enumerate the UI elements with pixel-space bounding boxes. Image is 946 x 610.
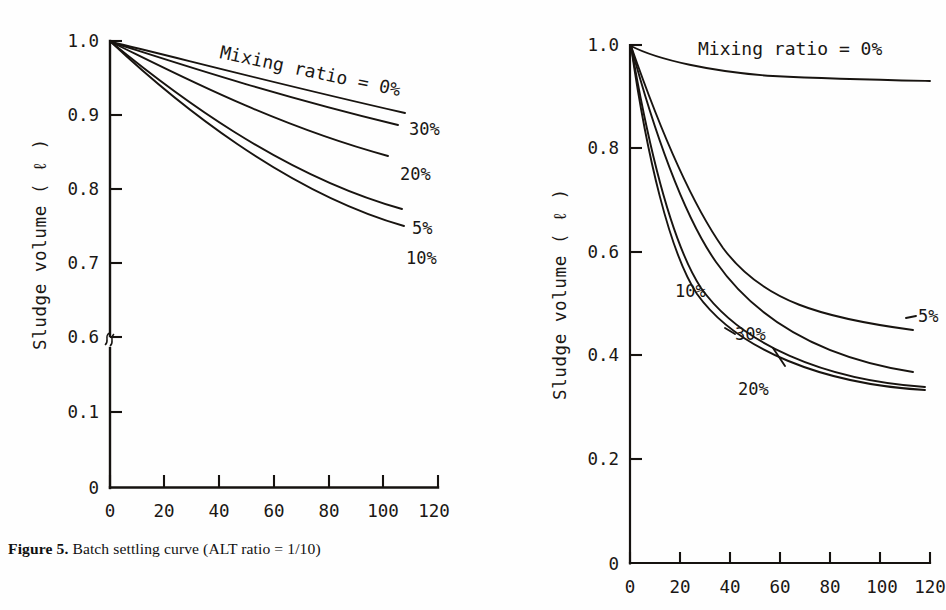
figure-caption: Figure 5. Batch settling curve (ALT rati… [8,540,448,558]
right-ytick-label-2: 0.6 [587,242,619,262]
left-xtick-label-0: 0 [105,501,116,521]
right-xtick-label-3: 60 [769,577,790,597]
left-ytick-label-2: 0.8 [67,179,99,199]
figure-caption-lead: Figure 5. [8,540,68,557]
right-xtick-label-4: 80 [819,577,840,597]
left-xtick-label-4: 80 [318,501,339,521]
left-curve-label-10pct: 10% [406,248,437,268]
right-ytick-label-0: 1.0 [587,35,619,55]
figure-caption-text: Batch settling curve (ALT ratio = 1/10) [72,540,320,557]
right-curve-20pct [631,46,925,387]
left-x-ticks [110,475,438,487]
right-chart-svg: 1.0 0.8 0.6 0.4 0.2 0 0 20 40 60 80 100 [473,0,946,610]
left-ytick-label-6: 0 [88,478,99,498]
left-curve-label-30pct: 30% [409,119,440,139]
left-y-axis-title: Sludge volume ( ℓ ) [30,138,50,350]
left-xtick-label-5: 100 [367,501,399,521]
right-curve-10pct [631,46,925,390]
right-xtick-label-0: 0 [625,577,636,597]
right-curve-label-20pct: 20% [738,379,769,399]
left-ytick-label-4: 0.6 [67,327,99,347]
right-mixing-ratio-annotation: Mixing ratio = 0% [698,38,882,59]
left-curve-label-20pct: 20% [400,164,431,184]
right-xtick-label-5: 100 [866,577,898,597]
right-curve-label-5pct: 5% [918,306,938,326]
left-xtick-label-1: 20 [153,501,174,521]
right-ytick-label-1: 0.8 [587,138,619,158]
left-ytick-label-0: 1.0 [67,31,99,51]
left-ytick-label-3: 0.7 [67,253,99,273]
left-y-ticks [110,41,122,412]
left-chart-svg: 1.0 0.9 0.8 0.7 0.6 0.1 0 0 20 40 60 80 [0,0,473,610]
right-curve-label-30pct: 30% [735,324,766,344]
left-ytick-label-1: 0.9 [67,105,99,125]
right-xtick-label-1: 20 [669,577,690,597]
left-ytick-label-5: 0.1 [67,402,99,422]
right-curve-5pct [631,46,913,330]
left-chart-panel: 1.0 0.9 0.8 0.7 0.6 0.1 0 0 20 40 60 80 [0,0,473,610]
right-ytick-label-5: 0 [608,554,619,574]
figure-5-root: 1.0 0.9 0.8 0.7 0.6 0.1 0 0 20 40 60 80 [0,0,946,610]
right-y-axis-title: Sludge volume ( ℓ ) [550,188,570,400]
right-xtick-label-6: 120 [914,577,946,597]
right-ytick-label-4: 0.2 [587,449,619,469]
left-xtick-label-6: 120 [418,501,450,521]
right-chart-panel: 1.0 0.8 0.6 0.4 0.2 0 0 20 40 60 80 100 [473,0,946,610]
left-xtick-label-2: 40 [208,501,229,521]
right-ytick-label-3: 0.4 [587,345,619,365]
left-xtick-label-3: 60 [263,501,284,521]
right-curve-label-10pct: 10% [675,281,706,301]
right-xtick-label-2: 40 [719,577,740,597]
left-curve-label-5pct: 5% [412,218,432,238]
right-x-ticks [630,552,930,563]
